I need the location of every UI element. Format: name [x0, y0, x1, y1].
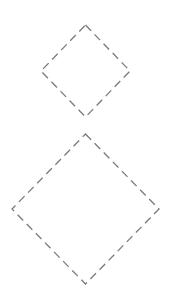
diamond-shape-large[interactable] — [12, 134, 159, 284]
diamond-shape-small[interactable] — [41, 25, 130, 117]
diagram-canvas — [0, 0, 177, 301]
